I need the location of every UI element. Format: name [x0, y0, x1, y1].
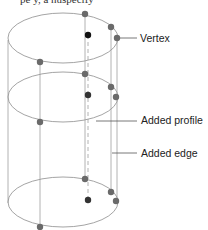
- center-vertex-top: [85, 32, 91, 38]
- vertex-dot: [114, 35, 120, 41]
- center-vertex-bottom: [85, 197, 91, 203]
- vertex-dot: [82, 176, 88, 182]
- cylinder-diagram: Vertex Added profile Added edge: [0, 0, 208, 230]
- vertex-dot: [108, 84, 114, 90]
- vertex-dot: [37, 119, 43, 125]
- top-profile: [8, 13, 118, 63]
- profiles: [8, 13, 118, 227]
- vertex-label: Vertex: [140, 32, 171, 44]
- vertex-dot: [37, 59, 43, 65]
- added-profile-label: Added profile: [141, 114, 203, 126]
- cylinder-edges: [8, 14, 117, 227]
- added-profile-ellipse: [8, 72, 118, 122]
- vertex-dot: [82, 11, 88, 17]
- vertex-dot: [82, 71, 88, 77]
- vertex-dot: [113, 198, 119, 204]
- vertex-dot: [108, 189, 114, 195]
- vertex-dot: [37, 224, 43, 230]
- added-edge-label: Added edge: [141, 147, 198, 159]
- center-vertex-middle: [85, 92, 91, 98]
- vertex-dot: [108, 24, 114, 30]
- vertices: [37, 11, 120, 230]
- vertex-dot: [113, 94, 119, 100]
- bottom-profile: [8, 177, 118, 227]
